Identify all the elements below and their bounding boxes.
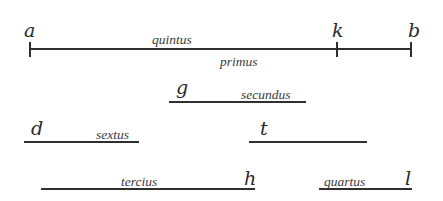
point-label-a: a	[24, 19, 35, 41]
segment-l: quartus l	[319, 167, 412, 189]
label-quartus: quartus	[324, 174, 365, 189]
point-label-d: d	[31, 117, 43, 139]
label-secundus: secundus	[241, 87, 291, 102]
segment-t: t	[249, 117, 367, 142]
label-sextus: sextus	[96, 127, 129, 142]
segment-h: tercius h	[41, 167, 256, 189]
point-label-b: b	[408, 19, 420, 41]
point-label-k: k	[332, 19, 344, 41]
segment-g: g secundus	[169, 76, 306, 102]
line-segments-diagram: a k b quintus primus g secundus d sextus…	[0, 0, 443, 201]
label-primus: primus	[219, 54, 258, 69]
main-line-group: a k b quintus primus	[24, 19, 420, 69]
point-label-g: g	[176, 76, 188, 98]
label-quintus: quintus	[152, 32, 192, 47]
point-label-l: l	[405, 167, 411, 189]
point-label-h: h	[244, 167, 256, 189]
point-label-t: t	[260, 117, 268, 139]
label-tercius: tercius	[121, 174, 157, 189]
segment-d: d sextus	[24, 117, 139, 142]
